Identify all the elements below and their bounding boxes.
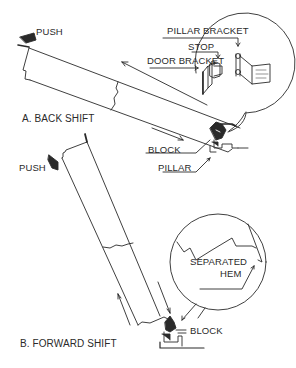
stop-label: STOP xyxy=(188,42,214,52)
pillar-label: PILLAR xyxy=(158,163,191,173)
block-label-b: BLOCK xyxy=(190,326,223,336)
push-arrow-icon xyxy=(48,155,58,170)
caption-back-shift: A. BACK SHIFT xyxy=(22,114,94,124)
panel-b-detail-circle xyxy=(170,214,266,320)
push-label-a: PUSH xyxy=(36,27,63,37)
pillar-bracket-label: PILLAR BRACKET xyxy=(167,26,249,36)
separated-hem-label-line1: SEPARATED xyxy=(190,257,247,267)
push-arrow-icon xyxy=(20,33,36,43)
diagram-canvas: PUSH PILLAR BRACKET STOP DOOR BRACKET A.… xyxy=(0,0,296,368)
separated-hem-label-line2: HEM xyxy=(220,269,241,279)
caption-forward-shift: B. FORWARD SHIFT xyxy=(20,339,117,349)
door-bracket-label: DOOR BRACKET xyxy=(147,56,224,66)
block-label-a: BLOCK xyxy=(148,145,181,155)
push-label-b: PUSH xyxy=(19,163,46,173)
panel-b-door xyxy=(48,134,170,325)
